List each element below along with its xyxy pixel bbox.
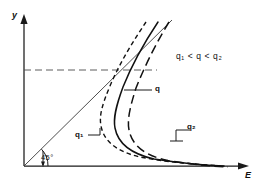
inequality-annotation: q₁ < q < q₂ <box>176 52 222 61</box>
leader-q1 <box>88 128 100 135</box>
angle-label: 45° <box>41 154 54 162</box>
curve-q1 <box>100 22 218 166</box>
curve-q2 <box>128 22 228 167</box>
asymptote-45deg-line <box>24 20 172 166</box>
figure-container: y E 45° q q₁ q₂ q₁ < q < q₂ <box>0 0 267 186</box>
y-axis <box>20 14 27 166</box>
curve-label-q: q <box>155 85 160 93</box>
y-axis-label: y <box>12 11 17 20</box>
curve-label-q2: q₂ <box>187 123 195 131</box>
curve-label-q1: q₁ <box>75 131 83 139</box>
y-axis-arrow-icon <box>20 14 27 24</box>
x-axis-label: E <box>245 171 251 180</box>
curve-q <box>114 22 224 166</box>
x-axis-arrow-icon <box>238 162 249 169</box>
leader-q2 <box>170 130 190 141</box>
